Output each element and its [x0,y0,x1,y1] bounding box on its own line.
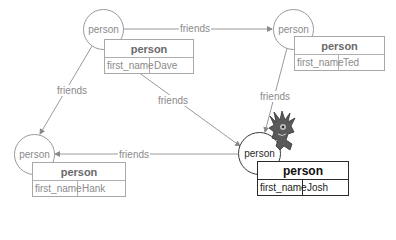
table-row: first_nameTed [295,55,384,70]
node-circle-label: person [88,24,119,35]
edge-label: friends [157,95,189,106]
field-value: Hank [78,181,109,196]
edge-label: friends [259,91,291,102]
table-title: person [33,163,125,181]
table-row: first_nameDave [105,58,193,73]
table-title: person [258,162,348,180]
goblin-mascot-icon [266,110,298,152]
edge-label: friends [179,23,211,34]
field-value: Ted [339,55,363,70]
field-value: Josh [303,180,332,195]
node-table-dave[interactable]: person first_nameDave [104,39,194,74]
field-value: Dave [150,58,181,73]
field-name: first_name [105,58,150,73]
table-row: first_nameHank [33,181,125,196]
table-row: first_nameJosh [258,180,348,195]
edge-label: friends [118,149,150,160]
field-name: first_name [258,180,303,195]
node-table-josh[interactable]: person first_nameJosh [257,161,349,196]
node-table-hank[interactable]: person first_nameHank [32,162,126,197]
node-circle-label: person [19,149,50,160]
table-title: person [105,40,193,58]
node-table-ted[interactable]: person first_nameTed [294,36,385,71]
node-circle-label: person [278,24,309,35]
field-name: first_name [295,55,339,70]
edge-dave-josh[interactable] [138,72,240,146]
field-name: first_name [33,181,78,196]
edge-label: friends [56,85,88,96]
table-title: person [295,37,384,55]
